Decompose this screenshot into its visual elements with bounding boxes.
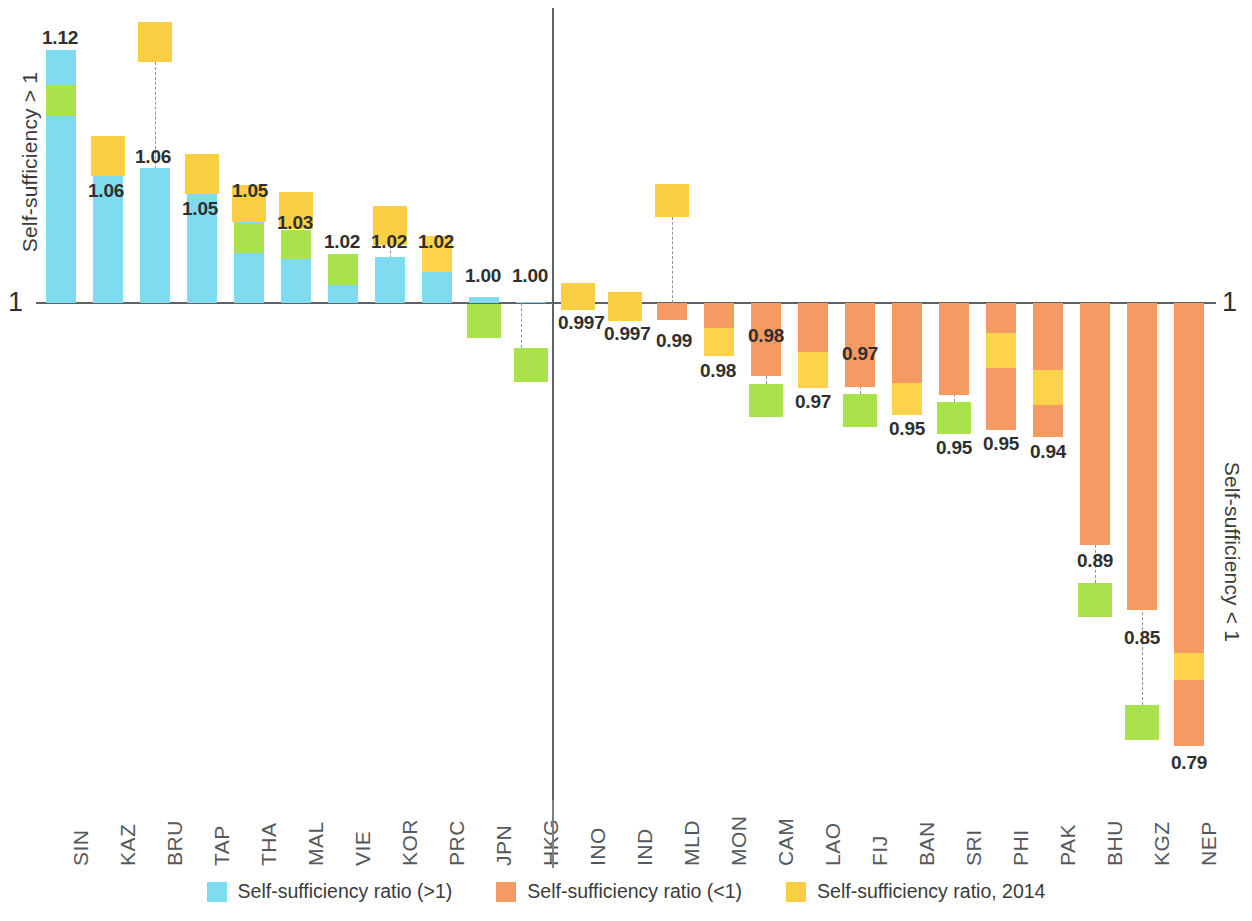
category-label-vie: VIE	[351, 831, 375, 866]
value-label-tha: 1.05	[232, 180, 268, 202]
value-label-tap: 1.05	[182, 198, 218, 220]
bar-kor[interactable]	[375, 257, 405, 303]
chart-plot-area: Self-sufficiency > 1 Self-sufficiency < …	[0, 0, 1252, 800]
marker-current-sri[interactable]	[937, 402, 971, 434]
value-label-kor: 1.02	[371, 231, 407, 253]
bar-pak[interactable]	[1033, 303, 1063, 437]
leader-line	[672, 217, 673, 303]
bar-sri[interactable]	[939, 303, 969, 395]
bar-bru[interactable]	[140, 168, 170, 303]
category-label-ban: BAN	[915, 821, 939, 866]
category-axis-divider	[552, 800, 554, 868]
marker-2014-kaz[interactable]	[91, 136, 125, 176]
marker-2014-ino[interactable]	[561, 283, 595, 310]
category-label-jpn: JPN	[492, 825, 516, 866]
bar-mld[interactable]	[657, 303, 687, 320]
category-label-tap: TAP	[210, 825, 234, 866]
y-axis-title-right: Self-sufficiency < 1	[1220, 427, 1244, 677]
marker-current-jpn[interactable]	[467, 304, 501, 338]
category-label-ind: IND	[633, 828, 657, 866]
chart-legend: Self-sufficiency ratio (>1)Self-sufficie…	[0, 880, 1252, 903]
category-label-ino: INO	[586, 827, 610, 866]
segment-current-tha	[234, 223, 264, 253]
bar-vie[interactable]	[328, 272, 358, 303]
marker-current-hkg[interactable]	[514, 348, 548, 382]
marker-2014-bru[interactable]	[138, 22, 172, 62]
segment-2014-nep	[1174, 653, 1204, 680]
marker-current-kgz[interactable]	[1125, 705, 1159, 740]
marker-2014-tap[interactable]	[185, 154, 219, 194]
bar-hkg[interactable]	[516, 302, 546, 303]
value-label-ind: 0.997	[604, 323, 651, 345]
bar-lao[interactable]	[798, 303, 828, 388]
value-label-sin: 1.12	[42, 27, 78, 49]
segment-2014-lao	[798, 352, 828, 388]
segment-2014-phi	[986, 333, 1016, 368]
legend-label-year_2014: Self-sufficiency ratio, 2014	[817, 880, 1045, 903]
marker-2014-ind[interactable]	[608, 292, 642, 321]
value-label-kaz: 1.06	[88, 180, 124, 202]
marker-2014-mld[interactable]	[655, 184, 689, 217]
category-label-kor: KOR	[398, 819, 422, 866]
category-label-pak: PAK	[1056, 824, 1080, 866]
segment-current-mal	[281, 230, 311, 259]
marker-current-fij[interactable]	[843, 394, 877, 427]
value-label-phi: 0.95	[983, 433, 1019, 455]
category-label-mon: MON	[727, 816, 751, 867]
marker-current-bhu[interactable]	[1078, 583, 1112, 617]
category-label-mal: MAL	[304, 821, 328, 866]
legend-item-above_one[interactable]: Self-sufficiency ratio (>1)	[207, 880, 453, 903]
bar-jpn[interactable]	[469, 297, 499, 303]
legend-swatch-icon-year_2014	[786, 882, 806, 902]
category-label-bru: BRU	[163, 820, 187, 866]
category-label-nep: NEP	[1197, 821, 1221, 866]
category-label-fij: FIJ	[868, 835, 892, 866]
bar-nep[interactable]	[1174, 303, 1204, 746]
bar-sin[interactable]	[46, 50, 76, 303]
category-label-tha: THA	[257, 823, 281, 867]
segment-current-sin	[46, 85, 76, 116]
value-label-ino: 0.997	[558, 312, 605, 334]
value-label-nep: 0.79	[1171, 752, 1207, 774]
chart-page: Self-sufficiency > 1 Self-sufficiency < …	[0, 0, 1252, 921]
value-label-fij: 0.97	[842, 343, 878, 365]
legend-item-below_one[interactable]: Self-sufficiency ratio (<1)	[496, 880, 742, 903]
leader-line	[521, 303, 522, 348]
value-label-lao: 0.97	[795, 391, 831, 413]
segment-2014-ban	[892, 383, 922, 415]
value-label-vie: 1.02	[324, 231, 360, 253]
baseline-label-left: 1	[8, 287, 23, 318]
value-label-mon: 0.98	[700, 360, 736, 382]
value-label-prc: 1.02	[418, 231, 454, 253]
bar-bhu[interactable]	[1080, 303, 1110, 545]
category-label-phi: PHI	[1009, 829, 1033, 866]
bar-kgz[interactable]	[1127, 303, 1157, 610]
bar-ban[interactable]	[892, 303, 922, 415]
legend-swatch-icon-above_one	[207, 882, 227, 902]
marker-current-cam[interactable]	[749, 384, 783, 417]
bar-prc[interactable]	[422, 272, 452, 303]
y-axis-title-left: Self-sufficiency > 1	[18, 37, 42, 287]
category-label-sri: SRI	[962, 829, 986, 866]
segment-2014-pak	[1033, 370, 1063, 405]
category-label-kaz: KAZ	[116, 824, 140, 866]
bar-phi[interactable]	[986, 303, 1016, 430]
category-label-kgz: KGZ	[1150, 821, 1174, 866]
value-label-sri: 0.95	[936, 437, 972, 459]
legend-label-below_one: Self-sufficiency ratio (<1)	[527, 880, 742, 903]
category-label-mld: MLD	[680, 820, 704, 866]
value-label-cam: 0.98	[748, 325, 784, 347]
panel-divider	[552, 8, 554, 868]
value-label-hkg: 1.00	[512, 265, 548, 287]
value-label-ban: 0.95	[889, 418, 925, 440]
bar-mal[interactable]	[281, 230, 311, 303]
value-label-jpn: 1.00	[465, 265, 501, 287]
category-label-lao: LAO	[821, 822, 845, 866]
bar-mon[interactable]	[704, 303, 734, 356]
legend-swatch-icon-below_one	[496, 882, 516, 902]
category-label-sin: SIN	[69, 829, 93, 866]
legend-label-above_one: Self-sufficiency ratio (>1)	[238, 880, 453, 903]
value-label-bru: 1.06	[135, 146, 171, 168]
legend-item-year_2014[interactable]: Self-sufficiency ratio, 2014	[786, 880, 1045, 903]
value-label-bhu: 0.89	[1077, 550, 1113, 572]
